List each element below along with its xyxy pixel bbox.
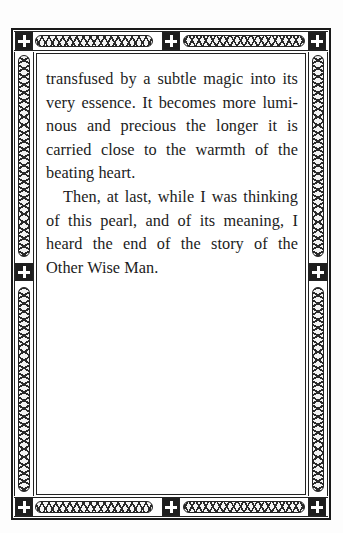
text-block: transfused by a subtle magic into its ve… [36,53,306,495]
text-line: transfused by a subtle magic into its [46,67,298,91]
text-line: beating heart. [46,161,298,185]
cross-icon [15,498,33,516]
cross-icon [309,263,327,281]
interlace-ornament [312,287,324,492]
paragraph-2: Then, at last, while I was thinking of t… [46,185,298,279]
text-line: very essence. It becomes more lumi- [46,91,298,115]
body-text: transfused by a subtle magic into its ve… [46,67,298,279]
cross-icon [15,32,33,50]
border-top-band [14,31,328,51]
cross-icon [15,263,33,281]
text-line: carried close to the warmth of the [46,138,298,162]
interlace-ornament [18,287,30,492]
cross-icon [162,32,180,50]
text-line: heard the end of the story of the [46,232,298,256]
cross-icon [308,498,326,516]
text-line: Then, at last, while I was thinking [46,185,298,209]
border-right-band [308,52,328,496]
border-bottom-band [14,497,328,517]
interlace-ornament [312,55,324,257]
border-left-band [14,52,34,496]
text-line: Other Wise Man. [46,256,298,280]
lattice-ornament [35,35,153,47]
ornamental-border: transfused by a subtle magic into its ve… [11,28,331,520]
paragraph-1: transfused by a subtle magic into its ve… [46,67,298,185]
book-page: transfused by a subtle magic into its ve… [0,0,343,533]
lattice-ornament [183,35,305,47]
lattice-ornament [35,501,153,513]
cross-icon [308,32,326,50]
lattice-ornament [183,501,305,513]
text-line: nous and precious the longer it is [46,114,298,138]
text-line: of this pearl, and of its meaning, I [46,209,298,233]
cross-icon [162,498,180,516]
interlace-ornament [18,55,30,257]
